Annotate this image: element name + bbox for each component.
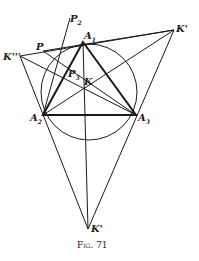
label-a2: A2 — [29, 112, 42, 125]
figure-caption: Fig. 71 — [77, 240, 108, 250]
label-k3: K''' — [2, 51, 21, 62]
geometry-figure: P2 A1 K' K''' P P3 K A2 A3 K' Fig. 71 — [0, 0, 199, 261]
line-k3-k2 — [20, 56, 88, 229]
label-a1: A1 — [83, 30, 96, 43]
labels: P2 A1 K' K''' P P3 K A2 A3 K' Fig. 71 — [2, 13, 188, 250]
label-k2: K' — [90, 223, 103, 234]
line-k3-a3 — [20, 56, 136, 115]
label-p2: P2 — [69, 13, 82, 26]
line-a1-k2 — [83, 42, 88, 229]
label-k1: K' — [175, 23, 188, 34]
label-k: K — [83, 76, 94, 87]
label-p: P — [35, 41, 44, 52]
label-p3: P3 — [67, 68, 80, 81]
line-k1-k2 — [88, 30, 174, 229]
label-a3: A3 — [137, 112, 150, 125]
